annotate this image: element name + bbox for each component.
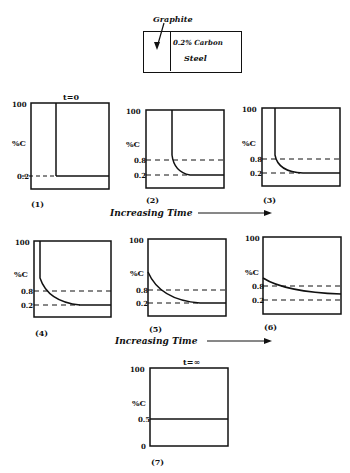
panel-1-tick-02: 0.2	[17, 172, 29, 181]
panel-7-ylabel: %C	[132, 398, 146, 408]
panel-2-tick-02: 0.2	[134, 171, 146, 180]
panel-5-tick-02: 0.2	[136, 299, 148, 308]
panel-6-tick-08: 0.8	[252, 282, 264, 291]
panel-7-title: t=∞	[183, 357, 200, 367]
panel-4-tick-100: 100	[15, 238, 30, 247]
panel-3-ylabel: %C	[242, 138, 256, 148]
panel-5-ylabel: %C	[130, 268, 144, 278]
diagram-graphics	[0, 0, 350, 473]
panel-1-tick-100: 100	[12, 100, 27, 109]
increasing-time-label-2: Increasing Time	[115, 336, 197, 346]
panel-2-ylabel: %C	[126, 139, 140, 149]
panel-4-tick-02: 0.2	[21, 301, 33, 310]
panel-3-tick-100: 100	[242, 105, 257, 114]
panel-3-tick-02: 0.2	[250, 169, 262, 178]
panel-2-tick-100: 100	[126, 107, 141, 116]
panel-4-ylabel: %C	[14, 269, 28, 279]
panel-5-caption: (5)	[149, 324, 162, 334]
panel-6-tick-02: 0.2	[252, 296, 264, 305]
panel-3-tick-08: 0.8	[250, 155, 262, 164]
panel-6-tick-100: 100	[245, 234, 260, 243]
panel-7-tick-05: 0.5	[138, 415, 150, 424]
increasing-time-label-1: Increasing Time	[110, 208, 192, 218]
panel-4-caption: (4)	[35, 328, 48, 338]
panel-3-caption: (3)	[263, 195, 276, 205]
panel-2-caption: (2)	[146, 195, 159, 205]
panel-2-tick-08: 0.8	[134, 156, 146, 165]
panel-7-tick-100: 100	[130, 365, 145, 374]
panel-1-caption: (1)	[31, 199, 44, 209]
panel-4-tick-08: 0.8	[21, 287, 33, 296]
panel-6-caption: (6)	[264, 322, 277, 332]
panel-7-tick-0: 0	[141, 442, 146, 451]
panel-7-caption: (7)	[151, 457, 164, 467]
panel-1-ylabel: %C	[12, 138, 26, 148]
panel-6-ylabel: %C	[245, 267, 259, 277]
panel-5-tick-100: 100	[129, 236, 144, 245]
panel-5-tick-08: 0.8	[136, 286, 148, 295]
panel-1-title: t=0	[63, 92, 79, 102]
